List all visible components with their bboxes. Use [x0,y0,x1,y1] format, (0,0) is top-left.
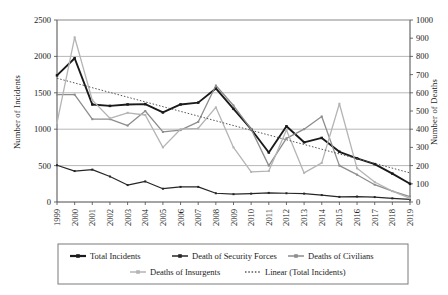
series-marker [179,103,182,106]
series-marker [391,172,394,175]
y2-tick-label: 0 [416,197,420,207]
series-line [57,58,410,184]
series-marker [338,165,340,167]
series-marker [74,94,76,96]
series-marker [250,193,252,195]
y2-tick-label: 1000 [416,15,433,25]
legend-marker [76,254,80,258]
x-tick-label: 2011 [264,209,274,226]
series-marker [127,125,129,127]
series-marker [109,117,111,119]
data-series-group [56,36,412,200]
series-marker [321,115,323,117]
series-marker [56,74,59,77]
series-marker [409,196,411,198]
series-marker [56,164,58,166]
y2-tick-label: 100 [416,179,429,189]
series-marker [91,103,94,106]
legend-marker [136,270,140,274]
y2-tick-label: 600 [416,88,429,98]
series-marker [268,165,270,167]
series-marker [215,85,217,87]
y2-tick-label: 200 [416,161,429,171]
x-tick-label: 2008 [211,209,221,226]
legend-item[interactable]: Death of Security Forces [172,251,277,261]
y2-tick-label: 500 [416,106,429,116]
series-marker [215,106,217,108]
y2-tick-label: 400 [416,124,429,134]
series-line [57,86,410,197]
x-tick-label: 2007 [193,209,203,226]
y2-axis-title: Number of Deaths [429,79,439,145]
series-marker [56,94,58,96]
x-tick-label: 2018 [387,209,397,226]
x-tick-label: 2016 [352,209,362,226]
series-marker [180,128,182,130]
series-marker [232,108,235,111]
x-tick-label: 2002 [105,209,115,226]
series-marker [303,141,306,144]
x-tick-label: 2006 [176,209,186,226]
series-marker [144,110,146,112]
series-marker [285,137,287,139]
x-tick-label: 2012 [281,209,291,226]
chart-container: 05001000150020002500 0100200300400500600… [0,0,448,295]
series-marker [250,171,252,173]
x-tick-label: 2005 [158,209,168,226]
series-marker [374,196,376,198]
gridlines-group [57,20,410,166]
series-marker [215,192,217,194]
x-tick-label: 2009 [229,209,239,226]
y-tick-label: 1000 [34,124,51,134]
x-tick-label: 2015 [334,209,344,226]
series-marker [268,151,271,154]
legend-label: Total Incidents [90,251,141,261]
legend-label: Deaths of Insurgents [150,267,220,277]
legend-item[interactable]: Total Incidents [70,251,141,261]
y-axis-tick-labels: 05001000150020002500 [34,15,57,207]
legend-item[interactable]: Linear (Total Incidents) [245,267,346,277]
series-marker [321,194,323,196]
series-marker [268,192,270,194]
chart-legend: Total IncidentsDeath of Security ForcesD… [58,244,408,284]
series-marker [180,186,182,188]
series-marker [56,122,58,124]
series-marker [338,196,340,198]
series-marker [91,118,93,120]
series-marker [162,111,165,114]
series-marker [409,183,412,186]
series-marker [233,105,235,107]
series-marker [233,146,235,148]
series-marker [391,190,393,192]
series-marker [197,101,200,104]
series-marker [144,114,146,116]
series-marker [285,125,288,128]
series-marker [374,181,376,183]
legend-box [58,244,408,284]
series-marker [338,151,341,154]
series-marker [338,103,340,105]
series-marker [74,36,76,38]
series-marker [391,197,393,199]
legend-item[interactable]: Deaths of Civilians [288,251,374,261]
series-marker [162,146,164,148]
series-marker [109,176,111,178]
series-marker [126,103,129,106]
x-tick-label: 2003 [123,209,133,226]
legend-item[interactable]: Deaths of Insurgents [130,267,220,277]
series-marker [73,57,76,60]
y2-tick-label: 300 [416,142,429,152]
series-marker [374,184,376,186]
x-tick-label: 2010 [246,209,256,226]
series-marker [197,186,199,188]
x-tick-label: 2000 [70,209,80,226]
y-tick-label: 1500 [34,88,51,98]
series-marker [321,137,324,140]
series-marker [127,112,129,114]
series-marker [233,193,235,195]
series-marker [303,172,305,174]
series-marker [197,127,199,129]
legend-label: Death of Security Forces [192,251,277,261]
series-marker [321,162,323,164]
series-marker [144,103,147,106]
